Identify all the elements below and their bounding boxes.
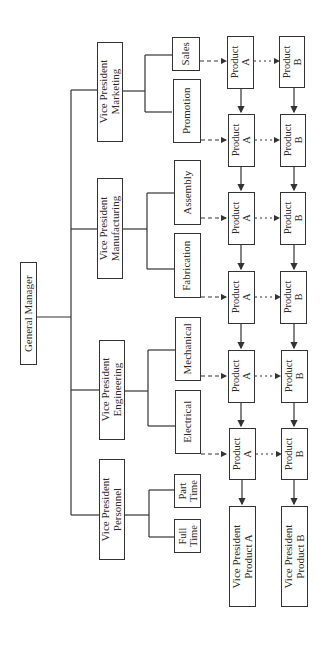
dept-mechanical-box: Mechanical (175, 317, 201, 381)
product-b-electrical-box: ProductB (281, 428, 308, 480)
product-b-line2: B (294, 294, 305, 301)
product-a-line1: Product (230, 202, 241, 235)
product-a-line2: A (241, 59, 252, 67)
dept-promotion-box: Promotion (173, 79, 201, 143)
general-manager-label: General Manager (23, 275, 35, 352)
product-a-line2: A (243, 450, 254, 458)
vp-personnel-box: Vice President Personnel (99, 459, 125, 560)
vp-marketing-line2: Marketing (110, 69, 122, 115)
dept-sales-label: Sales (180, 42, 192, 65)
product-b-promotion-box: ProductB (280, 114, 306, 167)
product-a-sales-box: ProductA (227, 36, 254, 89)
vp-engineering-box: Vice President Engineering (99, 340, 125, 440)
vp-product-a-line2: Product A (243, 534, 255, 578)
vp-personnel-line1: Vice President (100, 478, 112, 542)
vp-engineering-line2: Engineering (112, 363, 124, 417)
vp-engineering-line1: Vice President (100, 358, 112, 422)
vp-manufacturing-line2: Manufacturing (110, 196, 122, 261)
dept-full-time-line1: Full (176, 528, 187, 545)
product-a-line2: A (242, 215, 253, 223)
dept-fabrication-label: Fabrication (182, 240, 194, 290)
product-b-line1: Product (281, 46, 292, 79)
dept-electrical-label: Electrical (182, 401, 194, 443)
dept-fabrication-box: Fabrication (174, 233, 201, 298)
dept-full-time-box: Full Time (174, 519, 201, 553)
dept-mechanical-label: Mechanical (182, 323, 194, 374)
vp-personnel-line2: Personnel (112, 488, 124, 531)
product-b-assembly-box: ProductB (280, 192, 306, 245)
product-a-line1: Product (230, 360, 241, 393)
product-b-line2: B (295, 373, 306, 380)
product-b-mechanical-box: ProductB (281, 350, 308, 403)
vp-product-b-line2: Product B (295, 534, 307, 578)
product-b-line1: Product (282, 202, 293, 235)
product-a-mechanical-box: ProductA (228, 350, 255, 403)
product-b-line2: B (293, 215, 304, 222)
product-b-sales-box: ProductB (279, 36, 305, 88)
vp-manufacturing-box: Vice President Manufacturing (97, 178, 123, 279)
vp-product-a-line1: Vice President (231, 525, 243, 589)
vp-product-b-box: Vice President Product B (281, 506, 308, 607)
product-b-fabrication-box: ProductB (280, 271, 307, 324)
dept-assembly-label: Assembly (182, 170, 194, 214)
product-b-line1: Product (283, 360, 294, 393)
dept-full-time-line2: Time (187, 525, 198, 547)
product-a-assembly-box: ProductA (228, 192, 255, 245)
dept-part-time-box: Part Time (174, 474, 201, 508)
product-a-line2: A (242, 294, 253, 302)
dept-sales-box: Sales (172, 37, 200, 71)
product-a-line2: A (242, 373, 253, 381)
product-a-line1: Product (230, 124, 241, 157)
vp-marketing-line1: Vice President (98, 60, 110, 124)
product-b-line2: B (292, 58, 303, 65)
vp-marketing-box: Vice President Marketing (97, 42, 123, 142)
product-a-electrical-box: ProductA (229, 428, 256, 480)
product-b-line1: Product (283, 438, 294, 471)
dept-promotion-label: Promotion (181, 88, 193, 134)
product-b-line1: Product (282, 124, 293, 157)
dept-part-time-line1: Part (176, 483, 187, 500)
org-chart: General Manager Vice President Marketing… (0, 0, 330, 652)
dept-part-time-line2: Time (187, 480, 198, 502)
vp-product-b-line1: Vice President (283, 525, 295, 589)
product-a-line1: Product (230, 281, 241, 314)
dept-electrical-box: Electrical (175, 390, 201, 454)
product-a-line1: Product (231, 438, 242, 471)
general-manager-box: General Manager (20, 262, 37, 365)
product-a-promotion-box: ProductA (228, 114, 255, 167)
product-a-fabrication-box: ProductA (228, 271, 255, 324)
product-a-line1: Product (229, 46, 240, 79)
product-b-line2: B (293, 137, 304, 144)
product-b-line2: B (295, 450, 306, 457)
product-a-line2: A (242, 137, 253, 145)
dept-assembly-box: Assembly (174, 160, 201, 225)
product-b-line1: Product (282, 281, 293, 314)
vp-product-a-box: Vice President Product A (229, 506, 256, 607)
